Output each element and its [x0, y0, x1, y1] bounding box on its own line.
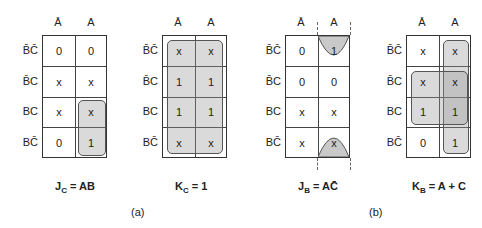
cell: x	[75, 67, 107, 98]
kmap-kb: Ā A B̄C̄ B̄C BC BC̄ x x x x 1 1 0 1 KB =…	[364, 0, 482, 200]
cell: 0	[318, 67, 350, 98]
cell: 1	[163, 67, 195, 98]
row-header-bc: BC	[251, 105, 281, 117]
cell: x	[195, 36, 227, 67]
row-header-b-c-bar: BC̄	[372, 136, 402, 148]
cell: 1	[75, 128, 107, 159]
cell: x	[407, 67, 439, 98]
col-header-a: A	[318, 16, 350, 28]
row-header-b-bar-c: B̄C	[128, 75, 158, 87]
row-header-b-bar-c: B̄C	[8, 75, 38, 87]
cell: x	[318, 128, 350, 159]
row-header-bc-bar: B̄C̄	[372, 44, 402, 56]
col-header-a-bar: Ā	[285, 16, 317, 28]
row-header-bc: BC	[128, 105, 158, 117]
cell: 1	[195, 97, 227, 128]
cell: 1	[318, 36, 350, 67]
figure-label-b: (b)	[369, 206, 382, 218]
row-header-b-bar-c: B̄C	[372, 75, 402, 87]
cell: x	[286, 97, 318, 128]
cell: 1	[407, 97, 439, 128]
col-header-a-bar: Ā	[162, 16, 194, 28]
wrap-marker	[317, 158, 318, 170]
cell: 0	[43, 36, 75, 67]
kmap-kc: Ā A B̄C̄ B̄C BC BC̄ x x 1 1 1 1 x x KC =…	[120, 0, 240, 200]
col-header-a: A	[195, 16, 227, 28]
equation-jb: JB = AC̄	[298, 180, 338, 195]
equation-kb: KB = A + C	[412, 180, 466, 195]
cell: x	[286, 128, 318, 159]
wrap-marker	[350, 22, 351, 35]
row-header-bc: BC	[372, 105, 402, 117]
row-header-b-c-bar: BC̄	[8, 136, 38, 148]
cell: x	[163, 128, 195, 159]
equation-jc: JC = AB	[55, 180, 95, 195]
cell: x	[407, 36, 439, 67]
wrap-marker	[350, 158, 351, 170]
row-header-bc-bar: B̄C̄	[8, 44, 38, 56]
cell: 1	[439, 97, 471, 128]
cell: 0	[286, 67, 318, 98]
cell: 0	[286, 36, 318, 67]
cell: 0	[407, 128, 439, 159]
cell: 1	[163, 97, 195, 128]
kmap-grid: 0 0 x x x x 0 1	[42, 35, 107, 158]
cell: x	[43, 97, 75, 128]
row-header-bc-bar: B̄C̄	[251, 44, 281, 56]
cell: x	[163, 36, 195, 67]
cell: 1	[195, 67, 227, 98]
col-header-a-bar: Ā	[42, 16, 74, 28]
cell: x	[75, 97, 107, 128]
col-header-a: A	[439, 16, 471, 28]
cell: x	[195, 128, 227, 159]
col-header-a-bar: Ā	[406, 16, 438, 28]
cell: x	[318, 97, 350, 128]
cell: 0	[75, 36, 107, 67]
row-header-bc-bar: B̄C̄	[128, 44, 158, 56]
kmap-grid: 0 1 0 0 x x x x	[285, 35, 350, 158]
figure-label-a: (a)	[131, 206, 144, 218]
equation-kc: KC = 1	[175, 180, 207, 195]
kmap-jb: Ā A B̄C̄ B̄C BC BC̄ 0 1 0 0 x x x x JB =…	[243, 0, 363, 200]
row-header-b-c-bar: BC̄	[128, 136, 158, 148]
kmap-grid: x x 1 1 1 1 x x	[162, 35, 227, 158]
col-header-a: A	[75, 16, 107, 28]
cell: x	[439, 67, 471, 98]
kmap-jc: Ā A B̄C̄ B̄C BC BC̄ 0 0 x x x x 0 1 JC =…	[0, 0, 120, 200]
cell: x	[439, 36, 471, 67]
wrap-marker	[317, 22, 318, 35]
row-header-b-bar-c: B̄C	[251, 75, 281, 87]
kmap-grid: x x x x 1 1 0 1	[406, 35, 471, 158]
cell: 0	[43, 128, 75, 159]
cell: 1	[439, 128, 471, 159]
row-header-bc: BC	[8, 105, 38, 117]
cell: x	[43, 67, 75, 98]
row-header-b-c-bar: BC̄	[251, 136, 281, 148]
